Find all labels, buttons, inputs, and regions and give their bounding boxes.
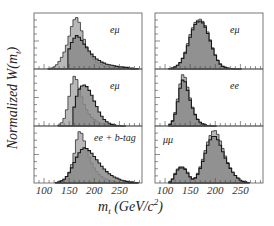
histogram-panel-0: eμ (34, 13, 142, 69)
histogram-dark (55, 148, 138, 183)
histogram-dark (169, 137, 249, 183)
histogram-figure: eμeμeμeeee + b-tagμμ10015020025010015020… (0, 0, 274, 226)
x-tick-label: 200 (207, 184, 224, 196)
x-tick-label: 100 (157, 184, 174, 196)
panel-label: eμ (110, 80, 119, 91)
histogram-panel-5: μμ (155, 126, 263, 183)
x-tick-label: 150 (61, 184, 78, 196)
x-tick-label: 100 (36, 184, 53, 196)
x-tick-label: 250 (111, 184, 128, 196)
x-tick-label: 150 (182, 184, 199, 196)
histogram-panel-1: eμ (155, 13, 263, 69)
x-tick-label: 250 (232, 184, 249, 196)
x-tick-label: 200 (86, 184, 103, 196)
x-axis-label: mt (GeV/c2) (98, 197, 163, 216)
panel-label: μμ (162, 134, 173, 145)
panel-label: ee (230, 80, 239, 91)
panel-frame (155, 69, 263, 126)
y-axis-label: Normalized W(mt) (5, 33, 21, 163)
histogram-panel-4: ee + b-tag (34, 126, 142, 183)
histogram-panel-3: ee (155, 69, 263, 126)
histogram-dark (169, 80, 217, 126)
panel-label: eμ (230, 24, 239, 35)
histogram-panel-2: eμ (34, 69, 142, 126)
panel-label: ee + b-tag (94, 132, 136, 143)
panel-label: eμ (110, 24, 119, 35)
